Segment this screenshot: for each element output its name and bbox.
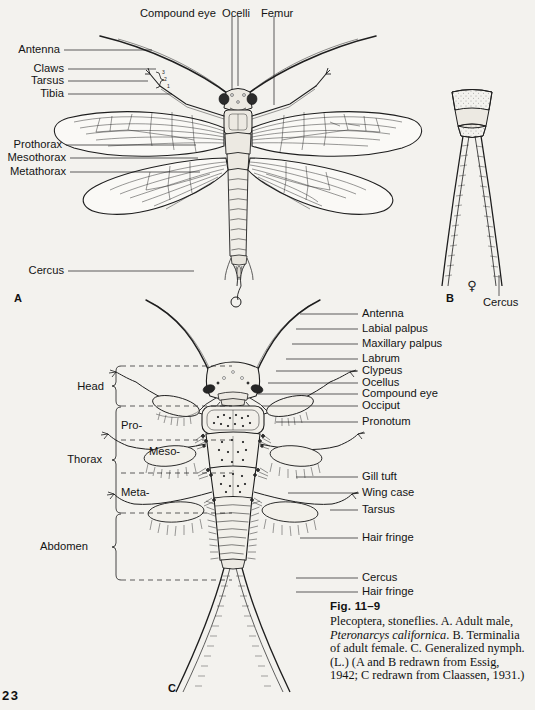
figure-key-a: A	[14, 292, 22, 304]
figure-b-artwork	[442, 90, 502, 297]
label-c-segment-2: Meta-	[121, 486, 150, 498]
label-c-right-13: Cercus	[362, 572, 397, 583]
label-a-left-6: Metathorax	[0, 166, 66, 177]
bracket-1	[112, 407, 121, 513]
label-c-bracket-0: Head	[77, 380, 104, 392]
label-c-segment-0: Pro-	[121, 419, 142, 431]
label-c-right-12: Hair fringe	[362, 532, 414, 543]
tarsus-segment-2: 2	[164, 76, 167, 82]
tarsus-segment-1: 1	[167, 83, 170, 89]
label-c-right-8: Pronotum	[362, 416, 411, 427]
caption-line-2: . B. Terminalia	[446, 628, 519, 642]
label-c-right-7: Occiput	[362, 400, 400, 411]
label-a-left-3: Tibia	[0, 88, 64, 99]
label-c-right-0: Antenna	[362, 308, 404, 319]
caption-line-3: of adult female. C. Generalized	[330, 641, 484, 655]
label-c-right-9: Gill tuft	[362, 471, 397, 482]
label-b-0: Cercus	[483, 297, 518, 308]
label-c-right-10: Wing case	[362, 487, 414, 498]
tarsus-segment-3: 3	[162, 69, 165, 75]
figure-key-b: B	[446, 292, 454, 304]
label-a-top-0: Compound eye	[140, 8, 216, 19]
label-c-right-4: Clypeus	[362, 365, 402, 376]
female-sex-symbol: ♀	[467, 278, 477, 293]
label-a-left-0: Antenna	[0, 44, 60, 55]
label-a-left-7: Cercus	[0, 265, 64, 276]
label-a-left-1: Claws	[0, 63, 64, 74]
label-a-top-2: Femur	[261, 8, 293, 19]
figure-caption: Fig. 11–9 Plecoptera, stoneflies. A. Adu…	[330, 600, 530, 683]
label-c-right-11: Tarsus	[362, 504, 395, 515]
caption-species-name: Pteronarcys californica	[330, 628, 446, 642]
label-a-left-5: Mesothorax	[0, 152, 66, 163]
caption-body: Plecoptera, stoneflies. A. Adult male, P…	[330, 615, 530, 683]
caption-line-6: 1931.)	[493, 668, 525, 682]
label-c-right-3: Labrum	[362, 353, 400, 364]
bracket-2	[112, 514, 121, 580]
label-a-left-4: Prothorax	[0, 139, 62, 150]
label-a-top-1: Ocelli	[222, 8, 250, 19]
label-c-right-6: Compound eye	[362, 388, 438, 399]
label-c-right-14: Hair fringe	[362, 586, 414, 597]
figure-key-c: C	[168, 682, 176, 694]
label-c-right-1: Labial palpus	[362, 323, 428, 334]
label-c-right-2: Maxillary palpus	[362, 338, 442, 349]
label-c-segment-1: Meso-	[149, 445, 180, 457]
label-c-bracket-1: Thorax	[67, 453, 102, 465]
label-c-bracket-2: Abdomen	[40, 540, 88, 552]
page-number: 23	[2, 688, 19, 703]
label-a-left-2: Tarsus	[0, 75, 64, 86]
caption-figure-number: Fig. 11–9	[330, 600, 530, 612]
caption-line-1: Plecoptera, stoneflies. A. Adult male,	[330, 614, 513, 628]
figure-page: 3 2 1	[0, 0, 535, 710]
